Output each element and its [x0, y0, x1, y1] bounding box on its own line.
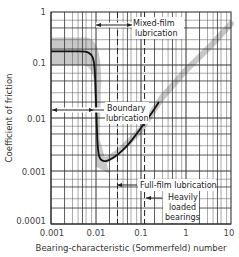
mixed-film-label: Mixed-film — [133, 19, 175, 28]
boundary-label-2: lubrication — [106, 114, 149, 123]
annotation-boundary: Boundary lubrication — [52, 102, 149, 124]
y-tick-0.1: 0.1 — [32, 58, 46, 68]
x-tick-1: 1 — [183, 228, 188, 238]
heavily-label: Heavily — [168, 193, 198, 202]
mixed-film-label-2: lubrication — [135, 29, 178, 38]
y-tick-0.001: 0.001 — [22, 167, 46, 177]
x-tick-0.01: 0.01 — [87, 228, 106, 238]
full-film-label: Full-film lubrication — [140, 181, 217, 190]
x-tick-0.1: 0.1 — [134, 228, 148, 238]
x-axis-label: Bearing-characteristic (Sommerfeld) numb… — [36, 243, 227, 253]
y-tick-1: 1 — [41, 7, 46, 17]
y-tick-0.0001: 0.0001 — [16, 216, 46, 226]
bearings-label: bearings — [165, 213, 200, 222]
loaded-label: loaded — [169, 203, 196, 212]
annotation-heavily-loaded: Heavily loaded bearings — [146, 191, 200, 223]
stribeck-chart: 1 0.1 0.01 0.001 0.0001 0.001 0.01 0.1 1… — [0, 0, 239, 257]
y-tick-0.01: 0.01 — [27, 114, 46, 124]
x-tick-0.001: 0.001 — [40, 228, 64, 238]
boundary-label: Boundary — [107, 104, 146, 113]
y-axis-label: Coefficient of friction — [4, 74, 14, 163]
x-tick-10: 10 — [224, 228, 235, 238]
annotation-full-film: Full-film lubrication — [117, 179, 217, 191]
